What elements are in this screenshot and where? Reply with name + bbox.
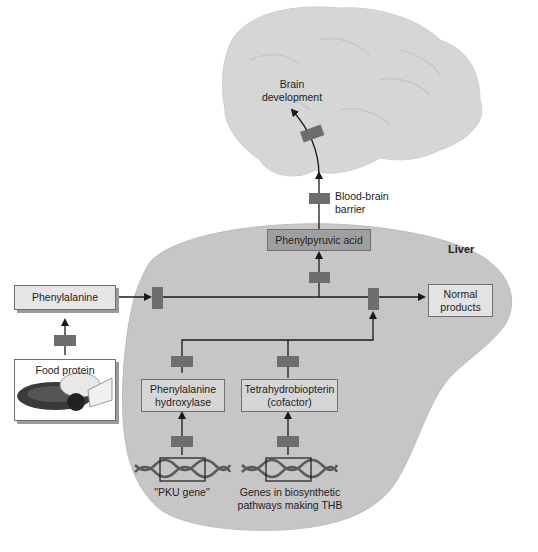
phenylalanine-label: Phenylalanine [32, 291, 98, 304]
liver-shape [123, 224, 512, 531]
bbb-line2: barrier [335, 203, 389, 216]
normal-line2: products [440, 301, 480, 314]
block-normal-products [368, 288, 379, 310]
brain-line2: development [252, 91, 332, 104]
liver-label: Liver [448, 243, 474, 255]
pah-line1: Phenylalanine [150, 383, 216, 396]
genes-line2: pathways making THB [230, 499, 350, 512]
food-protein-box: Food protein [14, 359, 116, 421]
brain-development-label: Brain development [252, 78, 332, 104]
phenylpyruvic-acid-box: Phenylpyruvic acid [267, 229, 371, 251]
brain-line1: Brain [252, 78, 332, 91]
blood-brain-barrier-label: Blood-brain barrier [335, 190, 389, 216]
phenylalanine-box: Phenylalanine [14, 285, 116, 310]
block-pah-entry [152, 287, 163, 309]
thb-line1: Tetrahydrobiopterin [245, 383, 335, 396]
thb-genes-label: Genes in biosynthetic pathways making TH… [230, 486, 350, 512]
tetrahydrobiopterin-box: Tetrahydrobiopterin (cofactor) [241, 379, 338, 412]
phenylpyruvic-acid-label: Phenylpyruvic acid [275, 234, 363, 247]
bbb-line1: Blood-brain [335, 190, 389, 203]
food-protein-label: Food protein [36, 364, 95, 377]
normal-products-box: Normal products [428, 284, 493, 317]
pku-gene-label: "PKU gene" [142, 486, 222, 499]
genes-line1: Genes in biosynthetic [230, 486, 350, 499]
phenylalanine-hydroxylase-box: Phenylalanine hydroxylase [141, 379, 225, 412]
thb-line2: (cofactor) [245, 396, 335, 409]
pah-line2: hydroxylase [150, 396, 216, 409]
normal-line1: Normal [440, 288, 480, 301]
